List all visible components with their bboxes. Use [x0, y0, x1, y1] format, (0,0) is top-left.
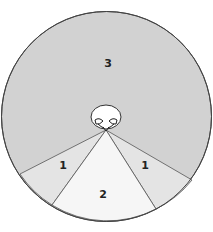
zone-2-label: 2	[99, 188, 107, 201]
zone-1-left-label: 1	[59, 159, 67, 172]
zone-1-right-label: 1	[141, 159, 149, 172]
visual-field-diagram: 3 1 2 1	[0, 0, 213, 232]
zone-3-label: 3	[104, 57, 112, 70]
